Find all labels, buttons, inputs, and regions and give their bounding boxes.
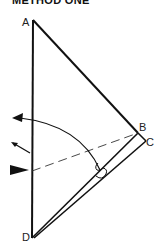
label-d: D	[22, 231, 30, 243]
fold-marker-arrow-icon	[10, 165, 29, 175]
edge-a-b	[33, 20, 138, 133]
curved-arrow-head-icon	[12, 113, 23, 122]
folding-diagram: A B C D	[0, 0, 157, 251]
label-b: B	[139, 121, 146, 133]
edge-b-c	[138, 133, 146, 141]
edge-d-b	[32, 133, 138, 238]
edge-a-d	[32, 20, 33, 238]
label-a: A	[22, 16, 30, 28]
small-arrow-head-icon	[11, 142, 18, 147]
fold-line-dashed	[32, 133, 138, 171]
label-c: C	[146, 136, 154, 148]
edge-d-c	[34, 141, 146, 238]
